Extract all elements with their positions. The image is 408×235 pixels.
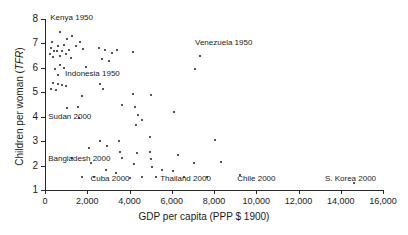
data-point: [121, 104, 123, 106]
data-point: [132, 93, 134, 95]
data-point: [220, 161, 222, 163]
scatter-chart: 12345678 02,0004,0006,0008,00010,00012,0…: [0, 0, 408, 235]
data-point: [59, 64, 61, 66]
x-tick-mark: [383, 190, 384, 194]
data-point: [194, 68, 196, 70]
point-annotation: Indonesia 1950: [65, 70, 120, 78]
point-annotation: Sudan 2000: [48, 113, 91, 121]
data-point: [119, 151, 121, 153]
data-point: [134, 106, 136, 108]
point-annotation: S. Korea 2000: [325, 175, 376, 183]
data-point: [57, 45, 59, 47]
data-point: [50, 47, 52, 49]
x-tick-mark: [341, 190, 342, 194]
x-tick-mark: [45, 190, 46, 194]
data-point: [116, 49, 118, 51]
x-tick-label: 16,000: [353, 197, 408, 206]
data-point: [55, 89, 57, 91]
data-point: [88, 147, 90, 149]
x-tick-mark: [130, 190, 131, 194]
data-point: [150, 94, 152, 96]
y-tick-label: 3: [24, 136, 38, 146]
y-tick-mark: [41, 43, 45, 44]
data-point: [81, 176, 83, 178]
data-point: [79, 41, 81, 43]
data-point: [57, 83, 59, 85]
y-tick-mark: [41, 19, 45, 20]
data-point: [101, 58, 103, 60]
x-tick-mark: [214, 190, 215, 194]
data-point: [68, 49, 70, 51]
data-point: [71, 35, 73, 37]
y-tick-label: 7: [24, 38, 38, 48]
data-point: [51, 41, 53, 43]
y-axis-title-tail: ): [14, 47, 25, 50]
data-point: [59, 55, 61, 57]
point-annotation: Bangladesh 2000: [48, 155, 110, 163]
data-point: [82, 48, 84, 50]
y-tick-label: 5: [24, 87, 38, 97]
x-tick-mark: [299, 190, 300, 194]
data-point: [59, 31, 61, 33]
y-axis-title-text: Children per woman (: [14, 70, 25, 166]
data-point: [99, 83, 101, 85]
data-point: [108, 60, 110, 62]
data-point: [136, 152, 138, 154]
data-point: [104, 49, 106, 51]
data-point: [66, 107, 68, 109]
data-point: [118, 140, 120, 142]
data-point: [150, 158, 152, 160]
point-annotation: Thailand 2000: [160, 175, 211, 183]
data-point: [141, 119, 143, 121]
data-point: [61, 84, 63, 86]
data-point: [63, 44, 65, 46]
y-tick-label: 1: [24, 185, 38, 195]
data-point: [52, 56, 54, 58]
data-point: [137, 114, 139, 116]
data-point: [57, 74, 59, 76]
data-point: [149, 136, 151, 138]
y-axis-line: [45, 19, 46, 191]
y-tick-mark: [41, 68, 45, 69]
data-point: [214, 139, 216, 141]
y-axis-title-italic: TFR: [14, 51, 25, 70]
data-point: [98, 47, 100, 49]
data-point: [172, 170, 174, 172]
data-point: [99, 140, 101, 142]
data-point: [106, 145, 108, 147]
data-point: [102, 88, 104, 90]
y-tick-mark: [41, 141, 45, 142]
data-point: [77, 106, 79, 108]
data-point: [132, 51, 134, 53]
data-point: [199, 55, 201, 57]
data-point: [81, 95, 83, 97]
y-axis-title: Children per woman (TFR): [14, 22, 25, 192]
x-axis-title: GDP per capita (PPP $ 1900): [0, 211, 408, 222]
data-point: [65, 53, 67, 55]
data-point: [133, 163, 135, 165]
point-annotation: Cuba 2000: [90, 175, 129, 183]
data-point: [105, 169, 107, 171]
data-point: [65, 85, 67, 87]
data-point: [85, 66, 87, 68]
data-point: [149, 151, 151, 153]
data-point: [54, 68, 56, 70]
point-annotation: Venezuela 1950: [195, 39, 252, 47]
data-point: [52, 82, 54, 84]
data-point: [151, 166, 153, 168]
y-tick-mark: [41, 166, 45, 167]
y-tick-mark: [41, 117, 45, 118]
data-point: [66, 38, 68, 40]
data-point: [121, 157, 123, 159]
data-point: [135, 124, 137, 126]
data-point: [173, 111, 175, 113]
data-point: [141, 176, 143, 178]
data-point: [50, 88, 52, 90]
data-point: [53, 50, 55, 52]
data-point: [56, 50, 58, 52]
y-tick-label: 2: [24, 161, 38, 171]
point-annotation: Kenya 1950: [50, 14, 93, 22]
point-annotation: Chile 2000: [237, 175, 275, 183]
y-tick-mark: [41, 92, 45, 93]
data-point: [155, 176, 157, 178]
